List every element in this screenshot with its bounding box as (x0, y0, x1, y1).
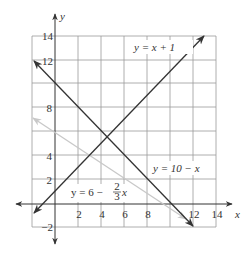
x-tick-2: 2 (76, 208, 82, 220)
label-y-10-minus-x: y = 10 − x (152, 162, 200, 174)
graph: 2 4 6 8 12 14 14 12 8 4 2 −2 x y y = x +… (0, 0, 252, 256)
label-3-denominator: 3 (114, 190, 120, 202)
label-y-6-minus-two-thirds-x: y = 6 − 2 3 x (70, 180, 128, 202)
y-tick-8: 8 (47, 102, 53, 114)
y-tick-neg2: −2 (41, 221, 53, 233)
y-tick-4: 4 (47, 150, 53, 162)
x-tick-labels: 2 4 6 8 12 14 (76, 208, 223, 220)
x-tick-8: 8 (145, 208, 151, 220)
x-tick-12: 12 (189, 208, 200, 220)
y-tick-12: 12 (42, 55, 53, 67)
y-axis-label: y (59, 10, 65, 22)
x-axis-label: x (234, 208, 240, 220)
x-tick-6: 6 (122, 208, 128, 220)
x-tick-4: 4 (99, 208, 105, 220)
x-tick-14: 14 (212, 208, 224, 220)
y-tick-labels: 14 12 8 4 2 −2 (41, 30, 53, 233)
label-y-x-plus-1: y = x + 1 (133, 41, 175, 53)
label-3-prefix: y = 6 − (71, 186, 103, 198)
y-tick-2: 2 (47, 174, 53, 186)
y-tick-14: 14 (42, 30, 54, 42)
label-3-suffix: x (121, 186, 127, 198)
